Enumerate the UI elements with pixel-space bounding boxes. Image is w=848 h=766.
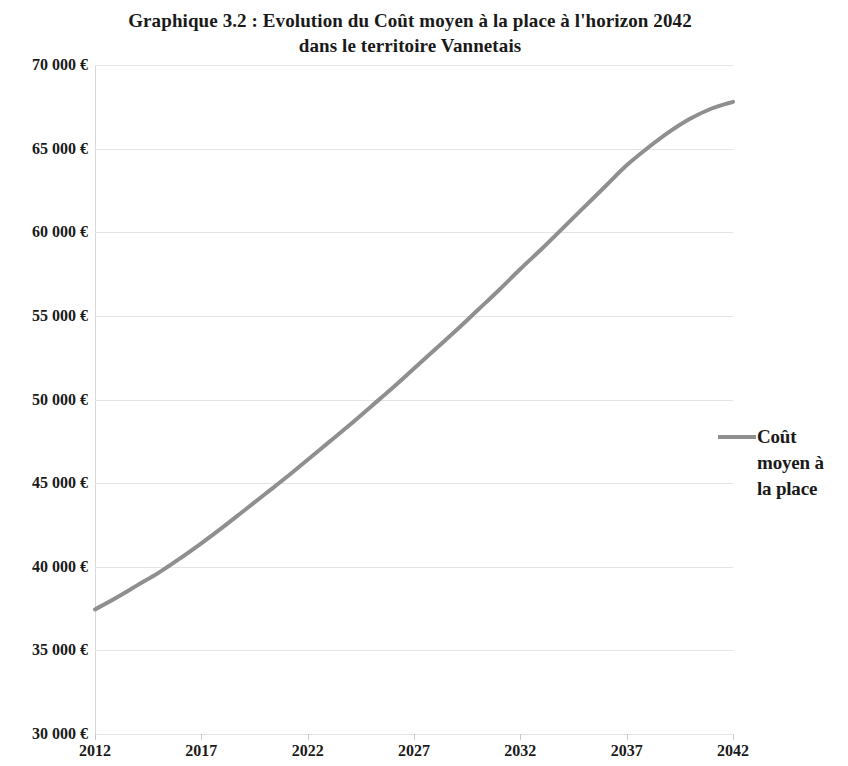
chart-title-line-1: Graphique 3.2 : Evolution du Coût moyen … (60, 8, 760, 33)
x-tick-mark (201, 734, 202, 740)
legend-label-line: la place (757, 476, 824, 502)
chart-figure: Graphique 3.2 : Evolution du Coût moyen … (0, 0, 848, 766)
legend-label-line: Coût (757, 424, 824, 450)
y-axis-labels: 70 000 €65 000 €60 000 €55 000 €50 000 €… (0, 0, 88, 766)
y-tick-label: 35 000 € (0, 641, 88, 659)
legend-label-line: moyen à (757, 450, 824, 476)
x-tick-mark (733, 734, 734, 740)
legend-line-swatch (718, 435, 756, 439)
series-path (95, 102, 733, 610)
legend-item-cout-moyen-a-la-place: Coûtmoyen àla place (718, 424, 848, 502)
x-tick-mark (627, 734, 628, 740)
x-tick-label: 2012 (50, 742, 140, 760)
x-tick-mark (414, 734, 415, 740)
y-tick-label: 60 000 € (0, 223, 88, 241)
y-tick-label: 55 000 € (0, 307, 88, 325)
y-tick-label: 50 000 € (0, 391, 88, 409)
y-tick-label: 40 000 € (0, 558, 88, 576)
y-tick-label: 70 000 € (0, 56, 88, 74)
x-tick-mark (520, 734, 521, 740)
x-tick-label: 2037 (582, 742, 672, 760)
y-tick-label: 65 000 € (0, 140, 88, 158)
x-tick-label: 2022 (263, 742, 353, 760)
x-tick-label: 2017 (156, 742, 246, 760)
y-tick-label: 30 000 € (0, 725, 88, 743)
chart-title: Graphique 3.2 : Evolution du Coût moyen … (60, 8, 760, 58)
y-tick-label: 45 000 € (0, 474, 88, 492)
x-tick-label: 2042 (688, 742, 778, 760)
x-tick-mark (308, 734, 309, 740)
plot-area (95, 65, 733, 734)
series-line-cout-moyen-a-la-place (95, 65, 733, 734)
legend-item-label: Coûtmoyen àla place (757, 424, 824, 502)
chart-title-line-2: dans le territoire Vannetais (60, 33, 760, 58)
x-tick-label: 2032 (475, 742, 565, 760)
x-tick-label: 2027 (369, 742, 459, 760)
chart-legend: Coûtmoyen àla place (718, 424, 848, 502)
x-tick-mark (95, 734, 96, 740)
